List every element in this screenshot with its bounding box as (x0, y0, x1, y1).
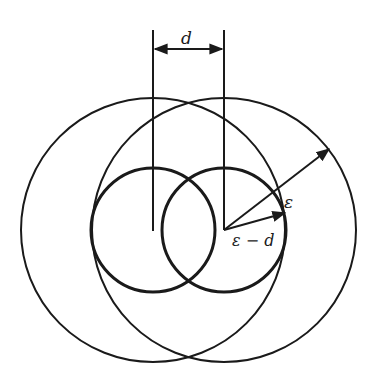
inner-radius-arrow (224, 213, 285, 230)
outer-radius-label: ε (284, 192, 293, 212)
diagram-canvas: d ε ε − d (0, 0, 372, 387)
inner-radius-label: ε − d (232, 231, 274, 250)
offset-label: d (181, 28, 192, 48)
outer-radius-arrow (224, 149, 329, 230)
